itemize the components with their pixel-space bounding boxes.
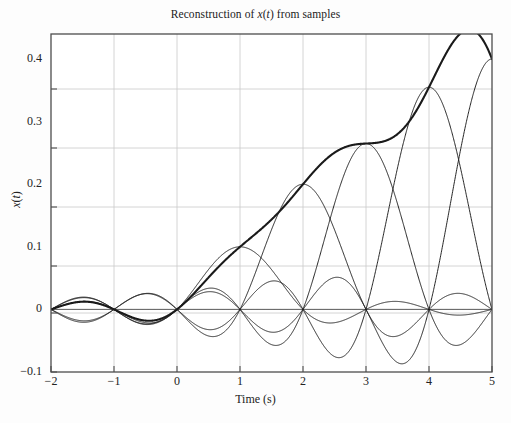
x-tick-label: 5 [477,374,507,389]
x-tick-label: −1 [99,374,129,389]
x-tick-label: 1 [225,374,255,389]
y-tick-label: 0.4 [8,51,42,66]
y-tick-label: 0.1 [8,239,42,254]
y-tick-label: −0.1 [8,364,42,379]
x-tick-label: 0 [162,374,192,389]
x-tick-label: 2 [288,374,318,389]
y-tick-label: 0.3 [8,114,42,129]
plot-area [0,0,511,423]
x-tick-label: 3 [351,374,381,389]
x-tick-label: 4 [414,374,444,389]
y-axis-label: x(t) [9,170,24,230]
x-axis-label: Time (s) [0,392,511,407]
y-tick-label: 0 [8,301,42,316]
figure-canvas: Reconstruction of x(t) from samples [0,0,511,423]
